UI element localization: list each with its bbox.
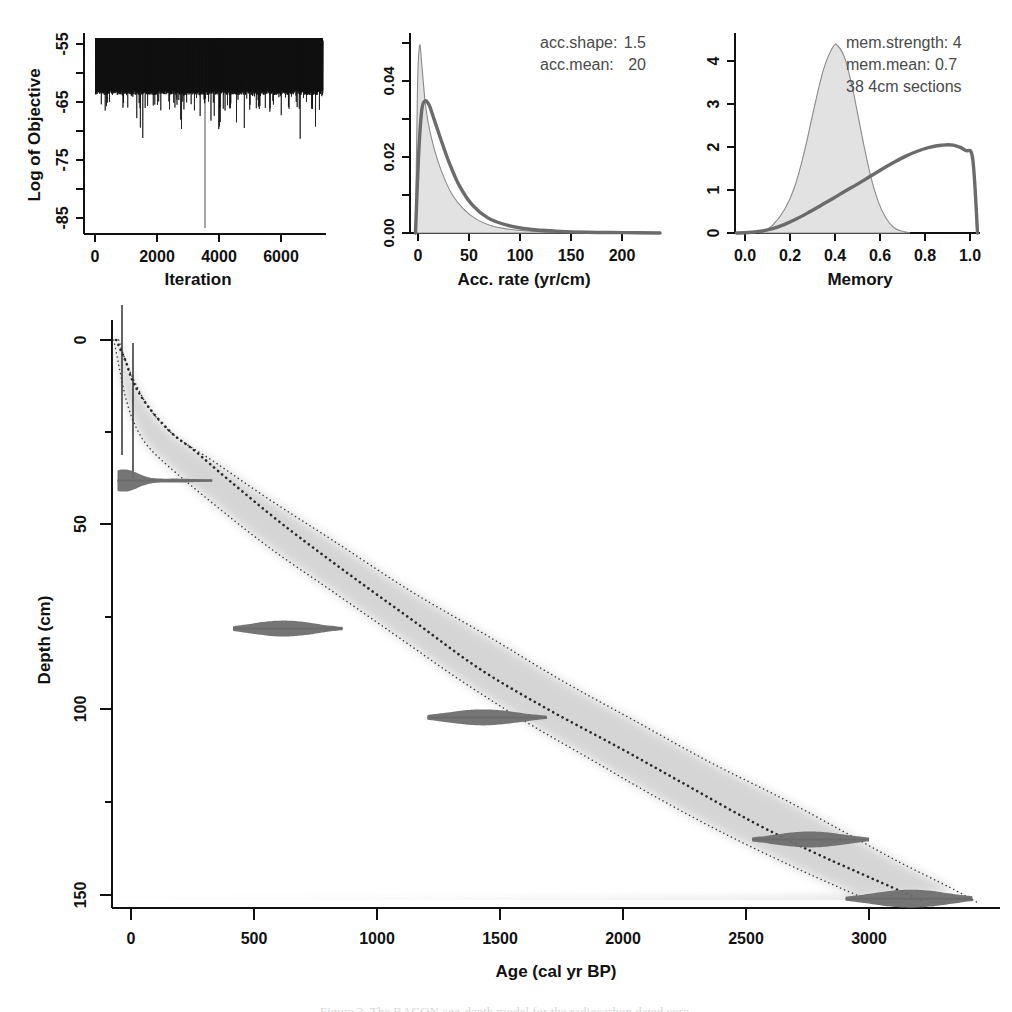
agedepth-ytick-1: 50	[72, 515, 89, 533]
mem-xtick-1: 0.2	[779, 247, 801, 264]
mem-ytick-4: 4	[705, 56, 722, 65]
mem-sections-annotation: 38 4cm sections	[846, 78, 962, 95]
acc-xtick-0: 0	[414, 247, 423, 264]
acc-xtick-1: 50	[460, 247, 478, 264]
agedepth-xtick-1: 500	[241, 930, 268, 947]
figure-caption: Figure 3. The BACON age-depth model for …	[0, 999, 1012, 1012]
mcmc-trace-path	[95, 38, 323, 139]
mcmc-x-axis-label: Iteration	[164, 270, 231, 289]
acc-y-ticks	[402, 43, 410, 233]
mem-x-ticks	[745, 233, 970, 241]
mem-xtick-2: 0.4	[824, 247, 846, 264]
agedepth-ytick-2: 100	[72, 696, 89, 723]
agedepth-x-ticks	[131, 908, 869, 920]
mem-xtick-5: 1.0	[959, 247, 981, 264]
agedepth-y-axis-label: Depth (cm)	[35, 596, 54, 685]
bacon-figure: -85 -75 -65 -55 Log of Objective 0 2000 …	[0, 0, 1012, 1012]
panel-mcmc: -85 -75 -65 -55 Log of Objective 0 2000 …	[25, 32, 326, 289]
mcmc-xtick-0: 0	[91, 248, 100, 265]
mcmc-ytick-3: -55	[54, 32, 71, 55]
agedepth-y-ticks	[100, 340, 112, 895]
mcmc-y-axis-label: Log of Objective	[25, 68, 44, 201]
acc-ytick-1: 0.02	[380, 142, 397, 171]
agedepth-x-axis-label: Age (cal yr BP)	[496, 962, 617, 981]
acc-xtick-3: 150	[558, 247, 585, 264]
mcmc-trace	[95, 38, 323, 228]
agedepth-xtick-2: 1000	[359, 930, 395, 947]
mcmc-y-ticks	[76, 44, 84, 218]
mem-mean-annotation: mem.mean: 0.7	[846, 56, 957, 73]
panel-acc-rate: 0.00 0.02 0.04 0 50 100 150 200 Acc. rat…	[380, 33, 660, 289]
mcmc-xtick-1: 2000	[139, 248, 175, 265]
mem-xtick-0: 0.0	[734, 247, 756, 264]
acc-xtick-2: 100	[507, 247, 534, 264]
acc-mean-label: acc.mean:	[540, 56, 614, 73]
mem-ytick-0: 0	[705, 228, 722, 237]
figure-canvas: -85 -75 -65 -55 Log of Objective 0 2000 …	[0, 0, 1012, 1012]
mcmc-ytick-1: -75	[54, 148, 71, 171]
acc-posterior-area	[415, 45, 660, 233]
acc-ytick-2: 0.04	[380, 66, 397, 96]
mem-xtick-3: 0.6	[869, 247, 891, 264]
mem-ytick-2: 2	[705, 142, 722, 151]
acc-x-axis-label: Acc. rate (yr/cm)	[457, 270, 590, 289]
mem-x-axis-label: Memory	[827, 270, 893, 289]
agedepth-xtick-0: 0	[127, 930, 136, 947]
agedepth-xtick-3: 1500	[482, 930, 518, 947]
agedepth-ytick-0: 0	[72, 335, 89, 344]
acc-shape-value: 1.5	[624, 34, 646, 51]
panel-age-depth: 0 50 100 150 Depth (cm) 0 500 1000 1500 …	[0, 305, 1000, 981]
mem-strength-annotation: mem.strength: 4	[846, 34, 962, 51]
mcmc-ytick-0: -85	[54, 206, 71, 229]
mcmc-xtick-3: 6000	[263, 248, 299, 265]
acc-xtick-4: 200	[609, 247, 636, 264]
acc-ytick-0: 0.00	[380, 218, 397, 247]
acc-shape-label: acc.shape:	[540, 34, 617, 51]
mem-ytick-3: 3	[705, 99, 722, 108]
mcmc-x-ticks	[95, 234, 281, 242]
mem-ytick-1: 1	[705, 185, 722, 194]
mem-xtick-4: 0.8	[914, 247, 936, 264]
agedepth-xtick-4: 2000	[605, 930, 641, 947]
acc-mean-value: 20	[628, 56, 646, 73]
mem-y-ticks	[727, 61, 735, 233]
agedepth-xtick-5: 2500	[728, 930, 764, 947]
agedepth-ytick-3: 150	[72, 882, 89, 909]
panel-memory: 0 1 2 3 4 0.0 0.2 0.4 0.6 0.8 1.0 Memory…	[705, 33, 981, 289]
agedepth-ci-lower	[119, 340, 978, 902]
mcmc-xtick-2: 4000	[201, 248, 237, 265]
agedepth-greyscale-cloud	[0, 340, 977, 902]
mcmc-ytick-2: -65	[54, 90, 71, 113]
agedepth-xtick-6: 3000	[851, 930, 887, 947]
acc-x-ticks	[418, 233, 622, 241]
